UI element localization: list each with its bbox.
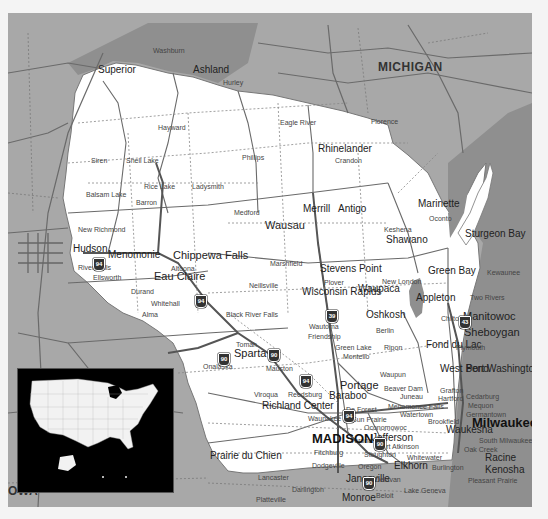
city-label: Cedarburg xyxy=(466,393,499,400)
city-label: Hudson xyxy=(73,244,107,254)
interstate-shield-icon: 90 xyxy=(374,438,386,451)
city-label: Watertown xyxy=(400,411,433,418)
city-label: South Milwaukee xyxy=(479,437,532,444)
city-label: Plover xyxy=(324,279,344,286)
city-label: Barron xyxy=(136,199,157,206)
city-label: Wisconsin Rapids xyxy=(302,287,381,297)
city-label: Sparta xyxy=(234,348,266,359)
city-label: Rhinelander xyxy=(318,144,372,154)
city-label: Beaver Dam xyxy=(384,385,423,392)
city-label: Oshkosh xyxy=(366,310,405,320)
city-label: Plymouth xyxy=(456,344,485,351)
city-label: Eau Claire xyxy=(154,271,205,282)
city-label: Lancaster xyxy=(258,474,289,481)
city-label: Ladysmith xyxy=(192,183,224,190)
city-label: Dodgeville xyxy=(312,462,345,469)
city-label: Phillips xyxy=(242,154,264,161)
city-label: Appleton xyxy=(416,293,455,303)
interstate-shield-icon: 90 xyxy=(268,349,280,362)
city-label: Juneau xyxy=(400,393,423,400)
interstate-shield-icon: 43 xyxy=(459,316,471,329)
city-label: Sturgeon Bay xyxy=(465,229,526,239)
city-label: Two Rivers xyxy=(470,294,505,301)
city-label: Prairie du Chien xyxy=(210,451,282,461)
city-label: Elkhorn xyxy=(394,461,428,471)
city-label: Lake Geneva xyxy=(404,487,446,494)
city-label: Ripon xyxy=(384,344,402,351)
interstate-shield-icon: 94 xyxy=(343,410,355,423)
city-label: Waupun xyxy=(380,371,406,378)
city-label: Monroe xyxy=(342,493,376,503)
city-label: Oconto xyxy=(429,215,452,222)
interstate-shield-icon: 90 xyxy=(363,477,375,490)
city-label: Sheboygan xyxy=(464,327,520,338)
city-label: Shell Lake xyxy=(126,157,159,164)
city-label: Viroqua xyxy=(254,391,278,398)
city-label: Oregon xyxy=(358,463,381,470)
city-label: Hartford xyxy=(438,395,463,402)
state-label-michigan: MICHIGAN xyxy=(378,61,443,73)
city-label: Rice Lake xyxy=(144,183,175,190)
city-label: Sun Prairie xyxy=(352,416,387,423)
usa-locator-inset xyxy=(17,368,174,493)
city-label: Superior xyxy=(98,65,136,75)
usa-map-icon xyxy=(18,369,173,492)
city-label: Alma xyxy=(142,311,158,318)
city-label: Marinette xyxy=(418,199,460,209)
city-label: Merrill xyxy=(303,204,330,214)
city-label: Montello xyxy=(343,353,369,360)
city-label: Antigo xyxy=(338,204,366,214)
city-label: Beloit xyxy=(376,492,394,499)
city-label: Platteville xyxy=(256,496,286,503)
city-label: Hayward xyxy=(158,124,186,131)
city-label: Stoughton xyxy=(364,451,396,458)
map-canvas[interactable]: MICHIGAN OWA Superior Washburn Ashland H… xyxy=(8,13,532,507)
city-label: Delavan xyxy=(375,476,401,483)
city-label: Baraboo xyxy=(329,391,367,401)
city-label: Friendship xyxy=(308,333,341,340)
city-label: Ellsworth xyxy=(93,274,121,281)
city-label-milwaukee: Milwaukee xyxy=(472,416,532,429)
city-label: Burlington xyxy=(432,464,464,471)
city-label: Shawano xyxy=(386,235,428,245)
city-label: Washburn xyxy=(153,47,185,54)
city-label: Marshfield xyxy=(270,260,302,267)
city-label: Racine xyxy=(485,453,516,463)
city-label: Hurley xyxy=(223,79,243,86)
city-label: Chippewa Falls xyxy=(173,250,248,261)
city-label: New London xyxy=(382,278,421,285)
city-label: Fitchburg xyxy=(314,449,343,456)
city-label: Grafton xyxy=(440,387,463,394)
city-label: Green Bay xyxy=(428,266,476,276)
city-label: Oconomowoc xyxy=(364,424,407,431)
city-label: Kenosha xyxy=(485,465,524,475)
city-label: Florence xyxy=(371,118,398,125)
city-label: Mauston xyxy=(266,365,293,372)
interstate-shield-icon: 90 xyxy=(218,353,230,366)
city-label: New Richmond xyxy=(78,226,125,233)
city-label: Richland Center xyxy=(262,401,334,411)
capital-label-madison: MADISON xyxy=(312,432,373,445)
city-label: Wausau xyxy=(265,220,305,231)
city-label: Crandon xyxy=(335,157,362,164)
interstate-shield-icon: 94 xyxy=(195,295,207,308)
city-label: Neillsville xyxy=(249,282,278,289)
city-label: Stevens Point xyxy=(320,264,382,274)
city-label: Pleasant Prairie xyxy=(468,477,517,484)
city-label: Medford xyxy=(234,209,260,216)
city-label: Durand xyxy=(131,288,154,295)
city-label: Berlin xyxy=(376,327,394,334)
city-label: Mequon xyxy=(468,402,493,409)
interstate-shield-icon: 94 xyxy=(93,258,105,271)
city-label: Black River Falls xyxy=(226,311,278,318)
city-label: Kewaunee xyxy=(487,269,520,276)
city-label: Waunakee xyxy=(308,415,341,422)
interstate-shield-icon: 39 xyxy=(326,310,338,323)
city-label: Wautoma xyxy=(309,323,339,330)
city-label: Menomonie xyxy=(108,250,160,260)
city-label: Reedsburg xyxy=(288,391,322,398)
city-label: Darlington xyxy=(292,486,324,493)
city-label: Keshena xyxy=(384,226,412,233)
city-label: Whitehall xyxy=(151,300,180,307)
city-label: Menomonee Falls xyxy=(388,403,444,410)
